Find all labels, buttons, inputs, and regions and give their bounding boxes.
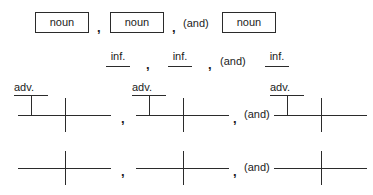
adv-label-2: adv. [132, 81, 152, 93]
noun-box-2: noun [110, 12, 164, 33]
inf-unit-2-label: inf. [168, 50, 192, 62]
row4-conjunction: (and) [244, 161, 270, 174]
row3-conjunction: (and) [244, 108, 270, 121]
row2-comma-1: , [146, 58, 150, 71]
row1-comma-2: , [172, 21, 176, 34]
diagram-canvas: noun , noun , (and) noun inf. , inf. , (… [0, 0, 373, 195]
adv-drop-3 [287, 95, 288, 115]
cross-row3-1 [65, 98, 66, 132]
inf-unit-2-rule [168, 66, 192, 67]
cross-row4-1 [65, 151, 66, 185]
noun-box-3: noun [222, 12, 276, 33]
cross-row3-2 [183, 98, 184, 132]
row4-comma-1: , [121, 165, 125, 178]
inf-unit-2: inf. [168, 50, 192, 67]
adv-label-3: adv. [270, 81, 290, 93]
noun-box-1: noun [35, 12, 89, 33]
noun-box-2-label: noun [111, 13, 163, 32]
row3-comma-2: , [233, 112, 237, 125]
row2-comma-2: , [208, 58, 212, 71]
row4-comma-2: , [233, 165, 237, 178]
row2-conjunction: (and) [220, 55, 246, 68]
adv-label-1: adv. [14, 81, 34, 93]
cross-row4-2 [183, 151, 184, 185]
cross-row4-3 [321, 151, 322, 185]
noun-box-1-label: noun [36, 13, 88, 32]
inf-unit-1-rule [106, 66, 130, 67]
inf-unit-3: inf. [265, 50, 289, 67]
row1-comma-1: , [97, 21, 101, 34]
adv-drop-1 [31, 95, 32, 115]
noun-box-3-label: noun [223, 13, 275, 32]
cross-row3-3 [321, 98, 322, 132]
row3-comma-1: , [121, 112, 125, 125]
inf-unit-3-rule [265, 66, 289, 67]
row1-conjunction: (and) [183, 17, 209, 30]
adv-drop-2 [149, 95, 150, 115]
inf-unit-1-label: inf. [106, 50, 130, 62]
inf-unit-3-label: inf. [265, 50, 289, 62]
inf-unit-1: inf. [106, 50, 130, 67]
